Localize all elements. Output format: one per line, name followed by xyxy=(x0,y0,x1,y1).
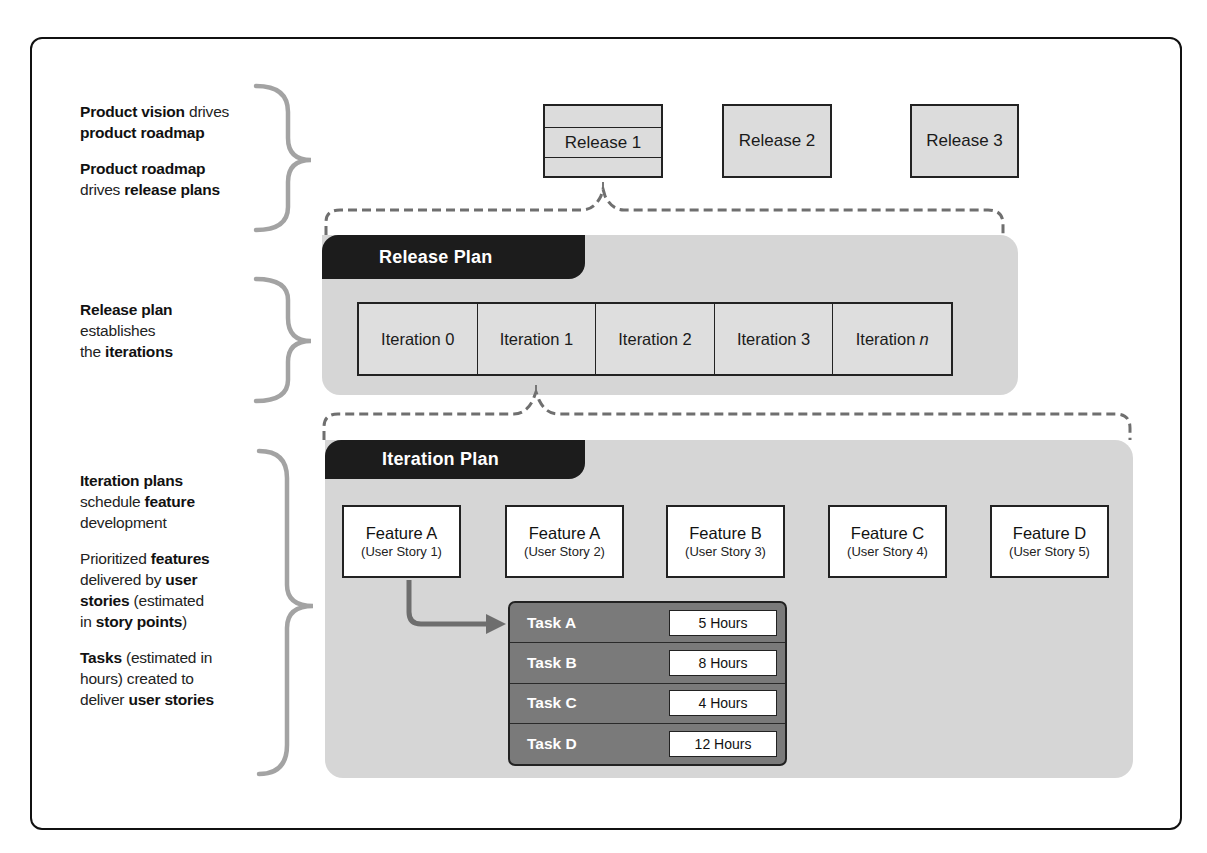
release-2-box: Release 2 xyxy=(722,104,832,178)
iteration-1: Iteration 1 xyxy=(478,304,597,374)
feature-card-user-story-4: Feature C (User Story 4) xyxy=(828,505,947,578)
note-release-plan: Release plan establishes the iterations xyxy=(80,299,173,362)
iteration-2: Iteration 2 xyxy=(596,304,715,374)
iteration-3: Iteration 3 xyxy=(715,304,834,374)
task-row: Task D 12 Hours xyxy=(510,724,785,764)
release-1-box: Release 1 xyxy=(543,104,663,178)
feature-card-user-story-5: Feature D (User Story 5) xyxy=(990,505,1109,578)
iteration-n: Iterationn xyxy=(833,304,951,374)
release-1-band: Release 1 xyxy=(545,127,661,158)
task-hours: 5 Hours xyxy=(669,610,777,636)
roadmap-notes: Product vision drives product roadmap Pr… xyxy=(80,101,229,200)
task-hours: 4 Hours xyxy=(669,690,777,716)
release-plan-title: Release Plan xyxy=(322,235,585,279)
feature-card-user-story-2: Feature A (User Story 2) xyxy=(505,505,624,578)
release-plan-notes: Release plan establishes the iterations xyxy=(80,299,173,362)
release-3-box: Release 3 xyxy=(910,104,1019,178)
note-product-vision: Product vision drives product roadmap xyxy=(80,101,229,143)
tasks-table: Task A 5 Hours Task B 8 Hours Task C 4 H… xyxy=(508,601,787,766)
note-tasks: Tasks (estimated in hours) created to de… xyxy=(80,647,214,710)
iterations-row: Iteration 0 Iteration 1 Iteration 2 Iter… xyxy=(357,302,953,376)
note-product-roadmap: Product roadmap drives release plans xyxy=(80,158,229,200)
feature-card-user-story-1: Feature A (User Story 1) xyxy=(342,505,461,578)
iteration-plan-notes: Iteration plans schedule feature develop… xyxy=(80,470,214,710)
note-prioritized-features: Prioritized features delivered by user s… xyxy=(80,548,214,632)
task-row: Task B 8 Hours xyxy=(510,643,785,683)
task-hours: 12 Hours xyxy=(669,731,777,757)
note-iteration-plans: Iteration plans schedule feature develop… xyxy=(80,470,214,533)
task-row: Task C 4 Hours xyxy=(510,684,785,724)
feature-card-user-story-3: Feature B (User Story 3) xyxy=(666,505,785,578)
task-row: Task A 5 Hours xyxy=(510,603,785,643)
iteration-plan-title: Iteration Plan xyxy=(325,440,585,479)
task-hours: 8 Hours xyxy=(669,650,777,676)
iteration-0: Iteration 0 xyxy=(359,304,478,374)
